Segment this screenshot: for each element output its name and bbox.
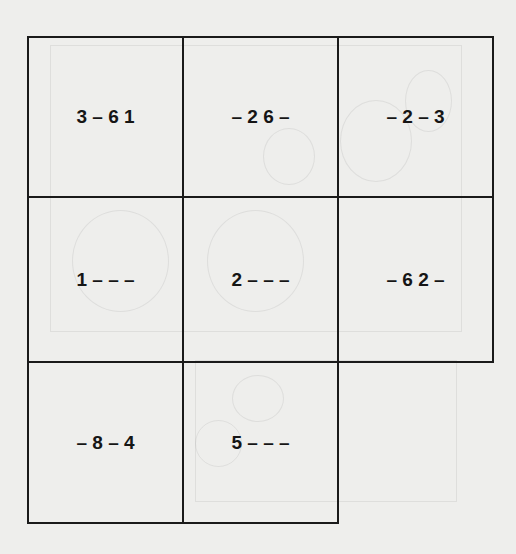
- cell-code: 5 – – –: [231, 432, 289, 454]
- grid-cell-r2c2: 2 – – –: [182, 196, 339, 363]
- cell-code: – 2 6 –: [231, 106, 289, 128]
- grid-cell-r2c1: 1 – – –: [27, 196, 184, 363]
- cell-code: – 8 – 4: [76, 432, 134, 454]
- grid-cell-r1c2: – 2 6 –: [182, 36, 339, 198]
- grid-cell-r2c3: – 6 2 –: [337, 196, 494, 363]
- cell-code: 2 – – –: [231, 269, 289, 291]
- cell-code: – 2 – 3: [386, 106, 444, 128]
- grid-cell-r1c3: – 2 – 3: [337, 36, 494, 198]
- cell-code: – 6 2 –: [386, 269, 444, 291]
- grid-cell-r3c2: 5 – – –: [182, 361, 339, 524]
- cell-code: 3 – 6 1: [76, 106, 134, 128]
- grid-cell-r1c1: 3 – 6 1: [27, 36, 184, 198]
- cell-code: 1 – – –: [76, 269, 134, 291]
- grid-cell-r3c1: – 8 – 4: [27, 361, 184, 524]
